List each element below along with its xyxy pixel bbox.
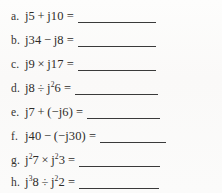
problem-expression-g: j27×j23= [22, 153, 75, 168]
problem-label-g: g. [0, 154, 22, 166]
problem-label-b: b. [0, 34, 22, 46]
answer-blank-d[interactable] [75, 84, 158, 95]
operand-right-h: j22 [51, 175, 65, 189]
worksheet-page: a. j5+j10= b. j34−j8= c. j9×j17= d. j8÷j… [0, 0, 222, 193]
problem-row: f. j40−(−j30)= [0, 124, 222, 148]
equals-sign-a: = [64, 9, 74, 23]
operand-right-b: j8 [54, 33, 64, 47]
operator-f: − [41, 129, 53, 143]
operand-right-e: (−j6) [47, 105, 73, 119]
operator-c: × [35, 57, 47, 71]
operand-left-b: j34 [25, 33, 41, 47]
problem-expression-b: j34−j8= [22, 33, 74, 48]
operand-left-a: j5 [25, 9, 35, 23]
problem-label-a: a. [0, 10, 22, 22]
problem-row: a. j5+j10= [0, 4, 222, 28]
operand-left-h: j38 [25, 175, 39, 189]
problem-label-c: c. [0, 58, 22, 70]
problem-row: c. j9×j17= [0, 52, 222, 76]
equals-sign-c: = [64, 57, 74, 71]
answer-blank-h[interactable] [79, 178, 159, 189]
problem-expression-f: j40−(−j30)= [22, 129, 96, 144]
problem-row: d. j8÷j26= [0, 76, 222, 100]
operand-right-a: j10 [47, 9, 63, 23]
answer-blank-c[interactable] [78, 60, 156, 71]
equals-sign-h: = [65, 175, 75, 189]
problem-expression-a: j5+j10= [22, 9, 74, 24]
operator-a: + [35, 9, 47, 23]
problem-expression-h: j38÷j22= [22, 175, 75, 190]
exponent-g-left: 2 [29, 151, 33, 160]
operand-right-c: j17 [47, 57, 63, 71]
operand-right-d: j26 [47, 81, 61, 95]
operator-e: + [35, 105, 47, 119]
exponent-g-right: 2 [55, 151, 59, 160]
exponent-h-right: 2 [55, 173, 59, 182]
problem-expression-e: j7+(−j6)= [22, 105, 83, 120]
operand-right-g: j23 [51, 153, 65, 167]
problem-expression-c: j9×j17= [22, 57, 74, 72]
problem-label-f: f. [0, 130, 22, 142]
problem-row: h. j38÷j22= [0, 170, 222, 193]
operand-left-f: j40 [25, 129, 41, 143]
equals-sign-b: = [64, 33, 74, 47]
problem-row: e. j7+(−j6)= [0, 100, 222, 124]
operand-left-d: j8 [25, 81, 35, 95]
answer-blank-b[interactable] [78, 36, 156, 47]
answer-blank-g[interactable] [79, 156, 160, 167]
operand-left-c: j9 [25, 57, 35, 71]
problem-row: b. j34−j8= [0, 28, 222, 52]
operand-left-g: j27 [25, 153, 39, 167]
equals-sign-f: = [86, 129, 96, 143]
problem-row: g. j27×j23= [0, 148, 222, 172]
equals-sign-e: = [73, 105, 83, 119]
problem-label-d: d. [0, 82, 22, 94]
answer-blank-e[interactable] [87, 108, 160, 119]
answer-blank-a[interactable] [78, 12, 156, 23]
problem-label-e: e. [0, 106, 22, 118]
operator-g: × [39, 153, 51, 167]
operand-right-f: (−j30) [54, 129, 86, 143]
operator-b: − [41, 33, 53, 47]
operand-left-e: j7 [25, 105, 35, 119]
equals-sign-d: = [61, 81, 71, 95]
operator-d: ÷ [35, 81, 47, 95]
exponent-d: 2 [51, 79, 55, 88]
exponent-h-left: 3 [29, 173, 33, 182]
problem-label-h: h. [0, 176, 22, 188]
problem-expression-d: j8÷j26= [22, 81, 71, 96]
equals-sign-g: = [65, 153, 75, 167]
operator-h: ÷ [39, 175, 51, 189]
answer-blank-f[interactable] [100, 132, 166, 143]
